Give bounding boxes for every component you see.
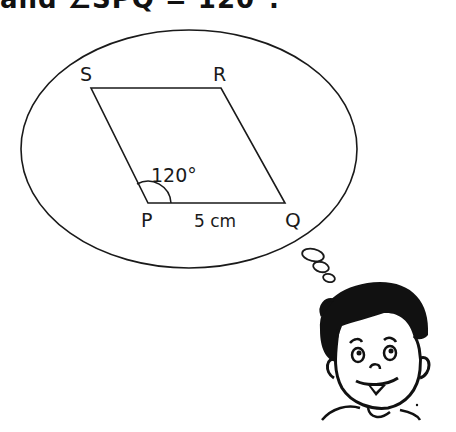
boy-nose bbox=[370, 364, 380, 369]
vertex-label-p: P bbox=[141, 209, 152, 231]
vertex-label-r: R bbox=[213, 63, 226, 85]
boy-eyebrow-right bbox=[384, 338, 396, 342]
thought-dot-medium bbox=[312, 260, 330, 274]
boy-character bbox=[320, 282, 429, 420]
angle-label: 120° bbox=[151, 164, 197, 186]
side-label-pq: 5 cm bbox=[194, 211, 236, 231]
boy-mouth bbox=[356, 378, 398, 384]
thought-dot-small bbox=[322, 273, 336, 284]
vertex-label-q: Q bbox=[285, 208, 301, 232]
vertex-label-s: S bbox=[80, 63, 92, 85]
boy-eyebrow-left bbox=[350, 339, 362, 343]
boy-face bbox=[336, 330, 421, 408]
thought-bubble bbox=[21, 30, 357, 268]
thought-dot-large bbox=[301, 247, 325, 263]
diagram-stage: and ∠SPQ = 120°. S R P Q 120° 5 cm bbox=[0, 0, 456, 432]
